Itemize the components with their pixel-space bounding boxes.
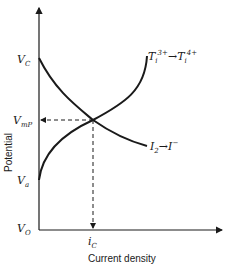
anodic-curve-label: Ti3+→Ti4+ (148, 49, 197, 65)
tick-label-vmp: VmP (13, 114, 33, 129)
potential-current-diagram: VC VmP Va VO iC Current density Potentia… (0, 0, 232, 269)
x-axis-title: Current density (88, 253, 156, 264)
cathodic-curve (39, 58, 147, 146)
anodic-curve (39, 56, 147, 180)
tick-label-ic: iC (88, 235, 98, 250)
cathodic-curve-label: I2→I− (149, 139, 178, 155)
tick-label-vc: VC (17, 53, 31, 68)
tick-label-va: Va (17, 174, 29, 189)
tick-label-vo: VO (17, 222, 31, 237)
y-axis-title: Potential (3, 133, 14, 172)
